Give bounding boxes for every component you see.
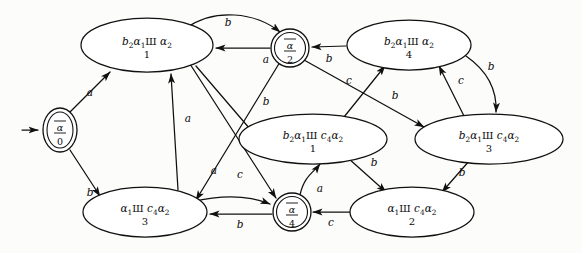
state-m3-index: 3 — [486, 143, 492, 154]
edge-label-q0-n1: a — [87, 86, 93, 98]
state-q0[interactable]: α 0 — [43, 108, 77, 152]
state-m1[interactable]: b2α1Ш c4α2 1 — [239, 114, 387, 164]
state-n1[interactable]: b2α1Ш α2 1 — [81, 18, 213, 72]
state-p2[interactable]: α1Ш c4α2 2 — [350, 187, 474, 237]
state-q4-greek: α — [289, 204, 296, 215]
state-m3[interactable]: b2α1Ш c4α2 3 — [415, 114, 563, 164]
edge-m3-p2 — [442, 160, 470, 192]
edge-label-q2-m3: b — [392, 89, 399, 101]
state-m1-index: 1 — [310, 143, 316, 154]
state-q0-greek: α — [57, 122, 64, 133]
edge-label-q4-p3: b — [237, 218, 244, 230]
state-n4[interactable]: b2α1Ш α2 4 — [347, 20, 471, 70]
edge-m1-p2 — [348, 158, 386, 192]
edge-label-p3-q4: c — [237, 168, 243, 180]
edge-label-m3-n4: c — [458, 74, 464, 86]
edge-label-n1-q2: b — [225, 16, 232, 28]
state-q2-index: 2 — [287, 54, 293, 65]
edge-p3-n1 — [171, 74, 178, 190]
edge-label-m3-p2: b — [459, 166, 466, 178]
edge-label-q2-p3: a — [185, 112, 191, 124]
edge-label-m1-n4: c — [346, 74, 352, 86]
edge-label-p3-n1: a — [211, 164, 217, 176]
state-q2-greek: α — [287, 40, 294, 51]
automaton-figure: α 0 b2α1Ш α2 1 α 2 b2α1Ш α2 4 b2α1Ш c4α2… — [0, 0, 582, 253]
state-p3[interactable]: α1Ш c4α2 3 — [83, 187, 207, 237]
state-n1-index: 1 — [144, 49, 150, 60]
automaton-canvas: α 0 b2α1Ш α2 1 α 2 b2α1Ш α2 4 b2α1Ш c4α2… — [0, 0, 582, 253]
state-q4[interactable]: α 4 — [273, 193, 311, 231]
edge-label-n4-m3: b — [488, 60, 495, 72]
edge-q0-p3 — [70, 150, 100, 196]
state-q2[interactable]: α 2 — [271, 29, 309, 67]
edge-label-q4-m1: a — [317, 182, 323, 194]
state-p2-index: 2 — [409, 216, 415, 227]
state-p3-index: 3 — [142, 216, 148, 227]
state-q0-index: 0 — [57, 136, 63, 147]
state-n4-index: 4 — [406, 49, 412, 60]
edge-label-q0-p3: b — [87, 186, 94, 198]
edge-label-n1-m1: b — [263, 95, 270, 107]
edge-label-p2-q4: c — [328, 216, 334, 228]
edge-n4-q2 — [312, 46, 346, 47]
edge-label-q2-n1: a — [263, 53, 269, 65]
edge-label-m1-p2: b — [371, 156, 378, 168]
edge-label-n4-q2: b — [326, 52, 333, 64]
state-q4-index: 4 — [289, 218, 295, 229]
